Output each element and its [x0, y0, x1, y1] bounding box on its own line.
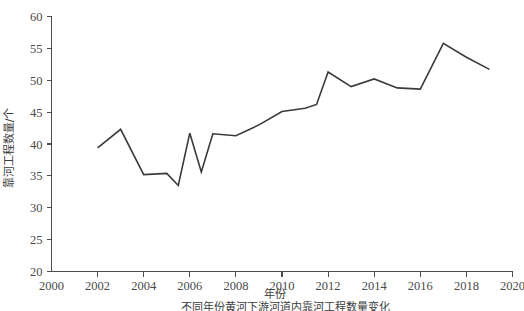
y-tick-label: 60 [30, 10, 43, 24]
x-tick-label: 2020 [500, 279, 524, 293]
x-tick-label: 2018 [454, 279, 479, 293]
line-chart-figure: 202530354045505560 200020022004200620082… [0, 0, 524, 311]
y-tick-label: 45 [30, 106, 43, 120]
x-tick-label: 2006 [177, 279, 202, 293]
x-tick-label: 2012 [316, 279, 341, 293]
x-tick-label: 2008 [223, 279, 248, 293]
x-tick-label: 2014 [362, 279, 388, 293]
x-tick-label: 2016 [408, 279, 433, 293]
chart-plot-area: 202530354045505560 200020022004200620082… [0, 0, 524, 311]
x-axis-ticks [98, 272, 513, 277]
x-tick-label: 2000 [39, 279, 64, 293]
y-axis-tick-labels: 202530354045505560 [30, 10, 43, 279]
x-tick-label: 2004 [131, 279, 157, 293]
data-series-line [98, 43, 490, 185]
y-tick-label: 30 [30, 201, 43, 215]
y-tick-label: 40 [30, 138, 43, 152]
y-tick-label: 25 [30, 233, 43, 247]
x-tick-label: 2002 [85, 279, 110, 293]
y-tick-label: 20 [30, 265, 43, 279]
y-tick-label: 35 [30, 169, 43, 183]
figure-caption: 不同年份黄河下游河道内靠河工程数量变化 [181, 300, 390, 311]
x-axis-title: 年份 [264, 287, 286, 301]
y-tick-label: 55 [30, 42, 43, 56]
y-axis-ticks [47, 17, 52, 272]
y-tick-label: 50 [30, 74, 43, 88]
y-axis-title: 靠河工程数量/个 [2, 108, 16, 189]
